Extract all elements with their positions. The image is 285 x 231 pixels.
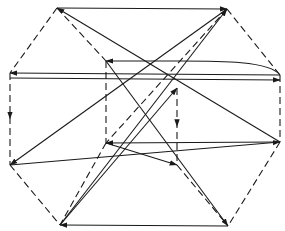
dashed-edge-LR-BR	[228, 142, 280, 226]
directed-arrows	[10, 8, 280, 226]
arrow-LL-to-LR	[10, 142, 280, 165]
dashed-edges	[10, 8, 280, 226]
dashed-edge-IBR-BR	[177, 165, 228, 226]
graph-diagram	[0, 0, 285, 231]
dashed-edge-LL-BL	[10, 165, 60, 225]
arrow-BL-to-TR	[60, 9, 227, 225]
arrow-LR-to-IBL	[106, 142, 280, 143]
arrow-ML-to-MR	[10, 78, 280, 80]
dashed-edge-TL-ITL	[57, 8, 106, 61]
arrow-MR-to-ITL	[106, 61, 280, 75]
dashed-edge-IBL-BL	[60, 143, 106, 225]
arrow-IBL-to-IBR	[106, 143, 177, 165]
dashed-edge-TR-MR	[227, 9, 280, 75]
dashed-edge-TL-ML	[10, 8, 57, 73]
arrow-TR-to-LL	[10, 9, 227, 165]
dashed-edge-TR-IBL	[106, 9, 227, 143]
arrow-BL-to-ITR	[60, 88, 177, 225]
arrow-BR-to-BL	[60, 225, 228, 226]
arrow-TL-to-TR	[57, 8, 227, 9]
arrow-MR-to-ML	[10, 73, 280, 75]
